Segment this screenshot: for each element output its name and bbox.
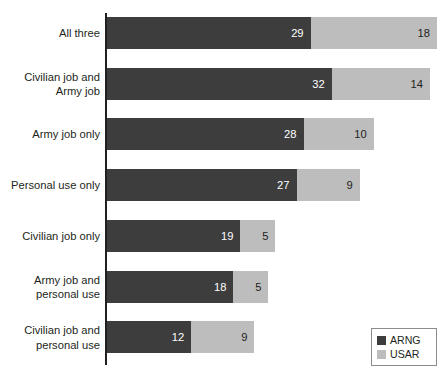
bar-value-label: 27 [277,179,289,191]
category-label: Civilian job and Army job [0,69,100,98]
category-label: All three [0,26,100,41]
legend-label: ARNG [390,335,421,346]
chart-row: Army job and personal use185 [0,271,446,303]
legend-label: USAR [390,349,419,360]
bar-segment-arng: 27 [107,169,297,201]
bar-segment-arng: 18 [107,271,233,303]
bar-segment-arng: 32 [107,68,332,100]
chart-row: Army job only2810 [0,118,446,150]
bar-segment-arng: 28 [107,118,304,150]
bar-value-label: 9 [346,179,352,191]
bar-value-label: 5 [255,281,261,293]
category-label: Civilian job only [0,229,100,244]
stacked-bar: 2810 [107,118,374,150]
stacked-bar: 279 [107,169,360,201]
legend-entry-usar: USAR [377,347,431,361]
bar-segment-usar: 9 [297,169,360,201]
chart-plot-area: All three2918Civilian job and Army job32… [0,0,446,375]
bar-segment-arng: 29 [107,17,311,49]
bar-segment-usar: 14 [332,68,430,100]
stacked-bar: 195 [107,220,275,252]
stacked-bar: 3214 [107,68,430,100]
chart-legend: ARNGUSAR [371,328,437,366]
bar-value-label: 29 [291,27,303,39]
chart-row: Civilian job and Army job3214 [0,68,446,100]
value-axis-spine [105,13,107,365]
stacked-bar-chart: All three2918Civilian job and Army job32… [0,0,446,375]
category-label: Army job only [0,127,100,142]
bar-value-label: 19 [221,230,233,242]
bar-value-label: 9 [241,331,247,343]
bar-segment-usar: 9 [191,321,254,353]
category-label: Civilian job and personal use [0,323,100,352]
bar-segment-usar: 5 [233,271,268,303]
bar-value-label: 28 [284,128,296,140]
legend-swatch-icon [377,350,386,359]
legend-swatch-icon [377,336,386,345]
stacked-bar: 2918 [107,17,437,49]
stacked-bar: 129 [107,321,254,353]
bar-value-label: 10 [354,128,366,140]
bar-value-label: 5 [262,230,268,242]
bar-value-label: 18 [417,27,429,39]
chart-row: Personal use only279 [0,169,446,201]
bar-segment-usar: 10 [304,118,374,150]
bar-value-label: 12 [172,331,184,343]
bar-segment-usar: 18 [311,17,437,49]
category-label: Personal use only [0,178,100,193]
category-label: Army job and personal use [0,272,100,301]
bar-value-label: 18 [214,281,226,293]
legend-entry-arng: ARNG [377,333,431,347]
bar-segment-usar: 5 [240,220,275,252]
chart-row: Civilian job only195 [0,220,446,252]
bar-value-label: 32 [312,78,324,90]
bar-value-label: 14 [410,78,422,90]
bar-segment-arng: 12 [107,321,191,353]
bar-segment-arng: 19 [107,220,240,252]
chart-row: All three2918 [0,17,446,49]
stacked-bar: 185 [107,271,268,303]
